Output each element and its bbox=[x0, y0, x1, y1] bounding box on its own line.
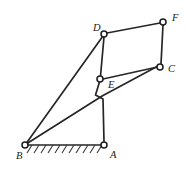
hatch-mark bbox=[76, 145, 81, 153]
hatch-mark bbox=[41, 145, 46, 153]
joint-label-c: C bbox=[168, 63, 176, 74]
link-bar-bc bbox=[27, 66, 158, 144]
figure-root: A B C D E F bbox=[0, 0, 187, 176]
ground-hatching bbox=[27, 145, 102, 153]
hatch-mark bbox=[62, 145, 67, 153]
joint-a[interactable] bbox=[101, 142, 107, 148]
link-bar-bd bbox=[27, 36, 104, 143]
link-bar-de bbox=[101, 37, 105, 76]
hatch-mark bbox=[48, 145, 53, 153]
joint-group bbox=[22, 19, 166, 148]
link-bar-ec bbox=[103, 67, 158, 79]
joint-label-e: E bbox=[107, 79, 115, 90]
hatch-mark bbox=[69, 145, 74, 153]
hatch-mark bbox=[55, 145, 60, 153]
link-group bbox=[27, 23, 164, 144]
joint-label-f: F bbox=[171, 12, 179, 23]
joint-c[interactable] bbox=[157, 64, 163, 70]
joint-f[interactable] bbox=[160, 19, 166, 25]
joint-label-a: A bbox=[109, 149, 117, 160]
hatch-mark bbox=[34, 145, 39, 153]
hatch-mark bbox=[90, 145, 95, 153]
joint-b[interactable] bbox=[22, 142, 28, 148]
link-bar-ae bbox=[96, 82, 105, 142]
joint-d[interactable] bbox=[101, 31, 107, 37]
joint-label-d: D bbox=[92, 22, 101, 33]
linkage-diagram: A B C D E F bbox=[0, 0, 187, 176]
joint-label-b: B bbox=[16, 150, 23, 161]
ground-support bbox=[25, 145, 104, 153]
link-bar-fc bbox=[161, 25, 163, 64]
hatch-mark bbox=[83, 145, 88, 153]
link-bar-df bbox=[107, 23, 160, 33]
joint-e[interactable] bbox=[97, 76, 103, 82]
